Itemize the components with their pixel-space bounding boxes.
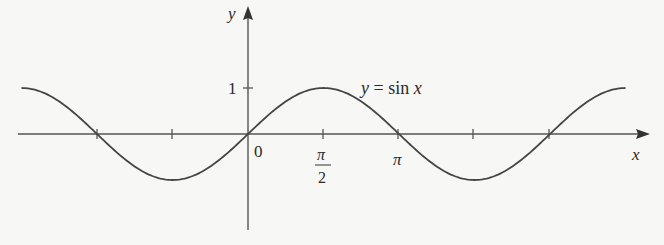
sine-chart: y x 0 1 π 2 π y = sin x: [0, 0, 664, 245]
pi-label: π: [393, 150, 402, 169]
x-axis-label: x: [631, 145, 640, 164]
origin-label: 0: [254, 142, 263, 161]
y-axis-arrow-icon: [243, 6, 253, 20]
y-axis-label: y: [226, 4, 236, 23]
pi-half-denominator: 2: [318, 169, 326, 186]
y-tick-label-1: 1: [228, 79, 237, 98]
function-label: y = sin x: [359, 78, 422, 98]
x-axis-arrow-icon: [636, 129, 650, 139]
pi-half-numerator: π: [317, 146, 326, 163]
chart-canvas: y x 0 1 π 2 π y = sin x: [0, 0, 664, 245]
